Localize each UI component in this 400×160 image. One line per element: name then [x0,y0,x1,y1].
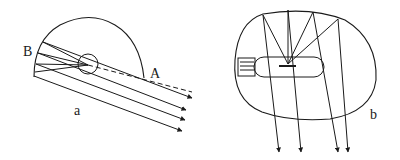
figure-a [34,18,192,132]
figure-b [235,10,376,152]
label-point-a: A [150,67,160,81]
diagram-canvas [0,0,400,160]
caption-b: b [370,108,377,122]
label-point-b: B [23,45,32,59]
caption-a: a [74,104,80,118]
lamp-base [238,58,255,76]
focus-circle [78,54,98,74]
